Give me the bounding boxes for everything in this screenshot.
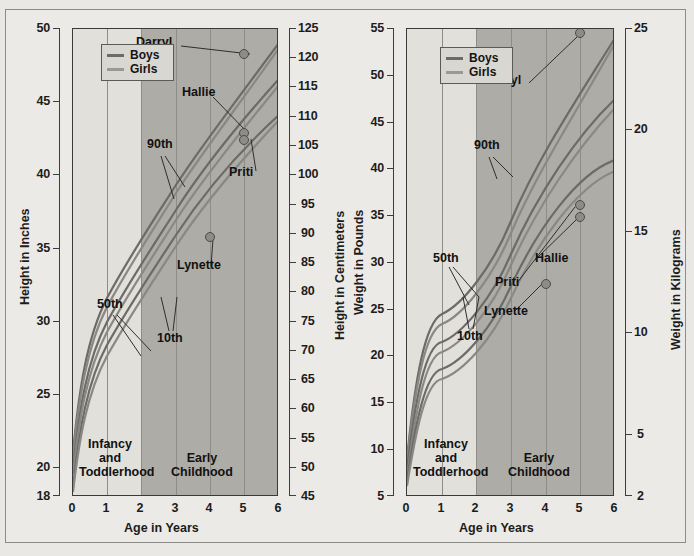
height-ytick-25: 25	[21, 387, 50, 401]
weight-right-axis-title: Weight in Kilograms	[669, 229, 683, 350]
weight-xtick-0: 0	[396, 501, 416, 515]
datapoint-lynette-weight[interactable]	[541, 279, 551, 289]
height-cm-tick-85: 85	[301, 255, 315, 269]
stage-label-early-childhood: Early Childhood	[502, 451, 576, 479]
weight-xtick-4: 4	[535, 501, 555, 515]
height-right-axis-title: Height in Centimeters	[333, 211, 347, 340]
height-plot-area: Infancy and Toddlerhood Early Childhood …	[72, 28, 278, 496]
weight-ytick-20: 20	[355, 348, 384, 362]
datapoint-priti-height[interactable]	[239, 135, 249, 145]
height-ytick-40: 40	[21, 167, 50, 181]
height-legend: Boys Girls	[101, 44, 174, 81]
height-percentile-curves	[73, 29, 278, 496]
legend-swatch-boys-icon	[107, 54, 124, 57]
height-cm-tick-105: 105	[298, 138, 318, 152]
height-cm-tick-70: 70	[301, 343, 315, 357]
height-ytick-20: 20	[21, 460, 50, 474]
weight-xtick-2: 2	[465, 501, 485, 515]
height-cm-tick-100: 100	[298, 167, 318, 181]
legend-label-girls: Girls	[130, 62, 157, 76]
point-label-hallie-height: Hallie	[182, 85, 215, 99]
height-cm-tick-95: 95	[301, 197, 315, 211]
height-xtick-6: 6	[268, 501, 288, 515]
height-ytick-45: 45	[21, 94, 50, 108]
legend-row-girls: Girls	[446, 65, 505, 79]
datapoint-priti-weight[interactable]	[575, 200, 585, 210]
weight-xtick-3: 3	[500, 501, 520, 515]
weight-right-axis-line	[625, 28, 626, 496]
weight-kg-tick-2: 2	[637, 489, 644, 503]
height-xtick-4: 4	[199, 501, 219, 515]
legend-label-boys: Boys	[469, 51, 498, 65]
weight-ytick-5: 5	[355, 489, 384, 503]
height-left-axis-title: Height in Inches	[18, 208, 32, 305]
weight-x-axis-title: Age in Years	[459, 521, 534, 535]
height-cm-tick-45: 45	[301, 489, 315, 503]
height-cm-tick-125: 125	[298, 21, 318, 35]
legend-row-boys: Boys	[107, 48, 166, 62]
legend-row-boys: Boys	[446, 51, 505, 65]
stage-label-infancy: Infancy and Toddlerhood	[413, 437, 479, 479]
weight-kg-tick-25: 25	[634, 21, 648, 35]
stage-label-early-childhood: Early Childhood	[165, 451, 239, 479]
height-cm-tick-90: 90	[301, 226, 315, 240]
height-xtick-1: 1	[96, 501, 116, 515]
height-ytick-50: 50	[21, 21, 50, 35]
weight-kg-tick-15: 15	[634, 224, 648, 238]
height-cm-tick-65: 65	[301, 372, 315, 386]
height-ytick-30: 30	[21, 314, 50, 328]
height-xtick-0: 0	[62, 501, 82, 515]
weight-xtick-6: 6	[604, 501, 624, 515]
legend-swatch-boys-icon	[446, 57, 463, 60]
weight-kg-tick-10: 10	[634, 325, 648, 339]
datapoint-lynette-height[interactable]	[205, 232, 215, 242]
legend-swatch-girls-icon	[107, 68, 124, 71]
weight-kg-tick-20: 20	[634, 122, 648, 136]
percentile-label-50th: 50th	[97, 297, 123, 311]
weight-ytick-55: 55	[355, 21, 384, 35]
percentile-label-10th: 10th	[457, 329, 483, 343]
stage-label-infancy: Infancy and Toddlerhood	[79, 437, 141, 479]
height-chart-panel: Infancy and Toddlerhood Early Childhood …	[0, 0, 347, 556]
point-label-lynette-weight: Lynette	[484, 304, 528, 318]
weight-plot-area: Infancy and Toddlerhood Early Childhood …	[406, 28, 614, 496]
point-label-priti-weight: Priti	[495, 275, 519, 289]
legend-label-boys: Boys	[130, 48, 159, 62]
weight-ytick-10: 10	[355, 442, 384, 456]
percentile-label-90th: 90th	[474, 138, 500, 152]
height-xtick-3: 3	[165, 501, 185, 515]
height-cm-tick-50: 50	[301, 460, 315, 474]
page-top-crop	[0, 0, 694, 5]
datapoint-darryl-height[interactable]	[239, 49, 249, 59]
height-cm-tick-115: 115	[298, 79, 318, 93]
weight-ytick-50: 50	[355, 68, 384, 82]
point-label-priti-height: Priti	[229, 165, 253, 179]
legend-label-girls: Girls	[469, 65, 496, 79]
percentile-label-10th: 10th	[157, 331, 183, 345]
height-cm-tick-55: 55	[301, 431, 315, 445]
height-left-axis-line	[59, 28, 60, 496]
figure-root: Infancy and Toddlerhood Early Childhood …	[0, 0, 694, 556]
datapoint-darryl-weight[interactable]	[575, 28, 585, 38]
height-ytick-18: 18	[21, 489, 50, 503]
weight-ytick-15: 15	[355, 395, 384, 409]
datapoint-hallie-weight[interactable]	[575, 212, 585, 222]
percentile-label-50th: 50th	[433, 251, 459, 265]
legend-swatch-girls-icon	[446, 71, 463, 74]
height-xtick-5: 5	[233, 501, 253, 515]
weight-left-axis-title: Weight in Pounds	[352, 210, 366, 315]
weight-chart-panel: Infancy and Toddlerhood Early Childhood …	[347, 0, 694, 556]
point-label-lynette-height: Lynette	[177, 258, 221, 272]
weight-ytick-45: 45	[355, 115, 384, 129]
point-label-hallie-weight: Hallie	[535, 251, 568, 265]
height-cm-tick-110: 110	[298, 109, 318, 123]
weight-kg-tick-5: 5	[637, 427, 644, 441]
weight-legend: Boys Girls	[440, 47, 513, 84]
height-x-axis-title: Age in Years	[124, 521, 199, 535]
weight-ytick-40: 40	[355, 161, 384, 175]
weight-xtick-5: 5	[569, 501, 589, 515]
percentile-label-90th: 90th	[147, 137, 173, 151]
legend-row-girls: Girls	[107, 62, 166, 76]
height-xtick-2: 2	[130, 501, 150, 515]
weight-xtick-1: 1	[431, 501, 451, 515]
